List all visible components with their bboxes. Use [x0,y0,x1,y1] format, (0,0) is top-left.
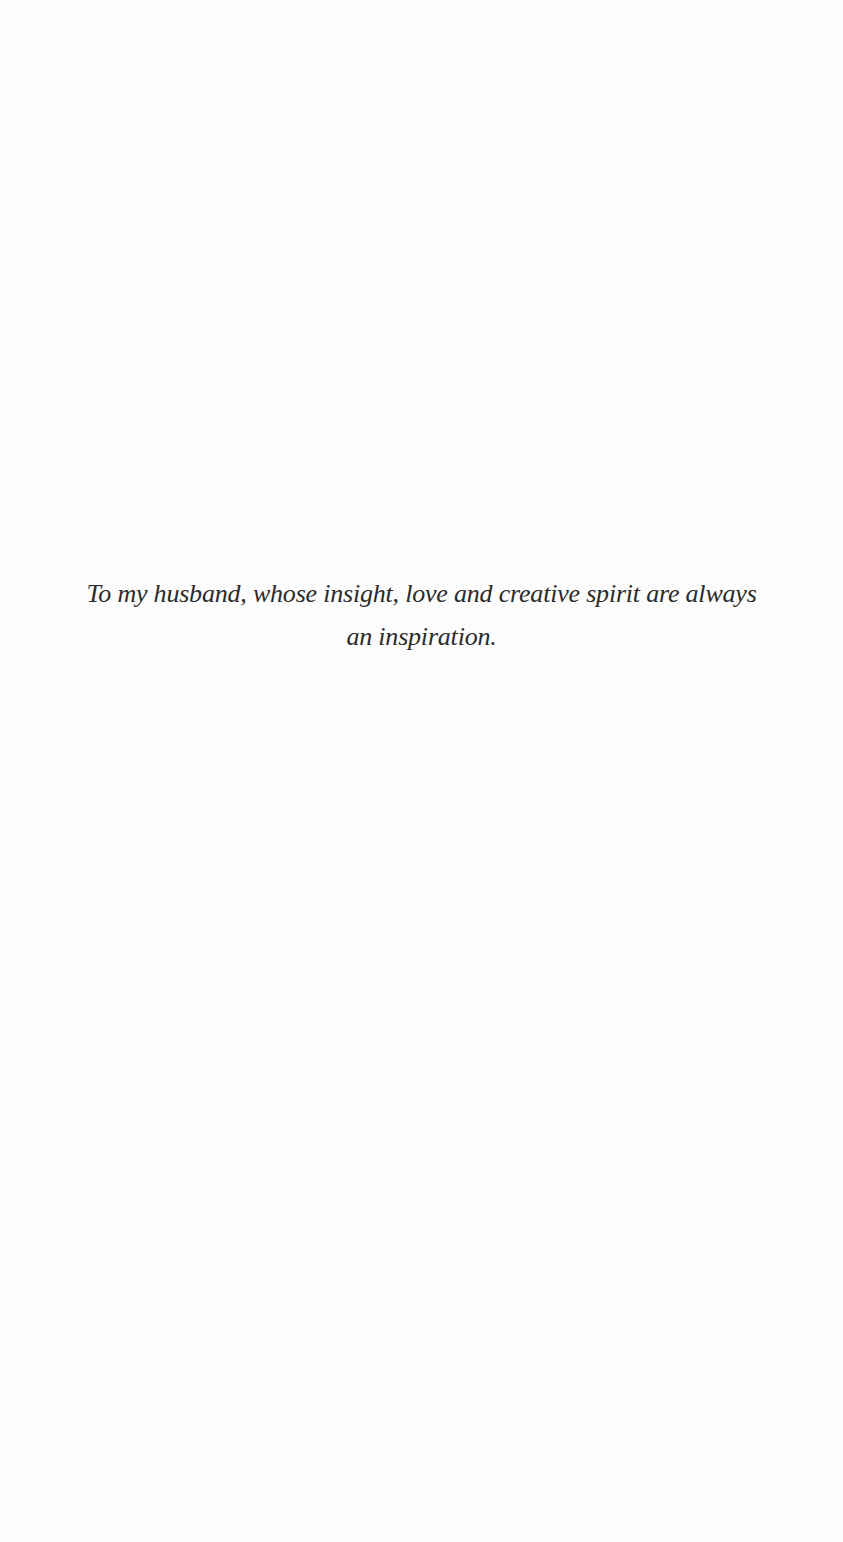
dedication-line-2: an inspiration. [70,615,773,658]
dedication-line-1: To my husband, whose insight, love and c… [70,572,773,615]
book-page: To my husband, whose insight, love and c… [0,0,843,1542]
dedication-text: To my husband, whose insight, love and c… [70,572,773,658]
